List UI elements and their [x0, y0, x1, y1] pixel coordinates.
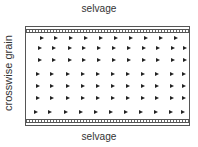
grain-arrow-icon	[52, 58, 56, 62]
grain-arrow-icon	[155, 84, 159, 88]
grain-arrow-icon	[183, 46, 187, 50]
grain-arrow-icon	[94, 110, 98, 114]
grain-arrow-icon	[126, 84, 130, 88]
grain-arrow-icon	[96, 84, 100, 88]
grain-arrow-icon	[127, 46, 131, 50]
grain-arrow-icon	[52, 46, 56, 50]
selvage-bottom-label: selvage	[8, 130, 190, 142]
crosswise-grain-label: crosswise grain	[2, 31, 14, 115]
grain-arrow-icon	[99, 36, 103, 40]
grain-arrow-icon	[159, 36, 163, 40]
grain-arrow-icon	[97, 46, 101, 50]
grain-arrow-icon	[81, 84, 85, 88]
grain-arrow-icon	[84, 36, 88, 40]
grain-arrow-icon	[154, 110, 158, 114]
grain-arrow-icon	[141, 72, 145, 76]
grain-arrow-icon	[34, 110, 38, 114]
grain-arrow-icon	[155, 72, 159, 76]
grain-arrow-icon	[111, 96, 115, 100]
grain-arrow-icon	[171, 58, 175, 62]
grain-arrow-icon	[142, 58, 146, 62]
grain-arrow-icon	[82, 46, 86, 50]
grain-arrow-icon	[124, 110, 128, 114]
fabric-frame	[25, 26, 190, 126]
grain-arrow-icon	[142, 46, 146, 50]
grain-arrow-icon	[40, 36, 44, 40]
grain-arrow-icon	[96, 96, 100, 100]
grain-arrow-icon	[69, 36, 73, 40]
grain-arrow-icon	[36, 96, 40, 100]
grain-arrow-icon	[112, 46, 116, 50]
grain-arrow-icon	[182, 72, 186, 76]
grain-arrow-icon	[79, 110, 83, 114]
grain-arrow-icon	[170, 72, 174, 76]
grain-arrow-icon	[182, 96, 186, 100]
grain-arrow-icon	[36, 72, 40, 76]
grain-arrow-icon	[170, 96, 174, 100]
grain-arrow-icon	[144, 36, 148, 40]
grain-arrow-icon	[68, 46, 72, 50]
selvage-top-edge	[26, 29, 189, 33]
grain-arrow-icon	[126, 96, 130, 100]
grain-arrow-icon	[156, 46, 160, 50]
grain-arrow-icon	[109, 110, 113, 114]
grain-arrow-icon	[38, 46, 42, 50]
grain-arrow-icon	[174, 36, 178, 40]
grain-arrow-icon	[127, 58, 131, 62]
grain-arrow-icon	[96, 72, 100, 76]
grain-arrow-icon	[50, 72, 54, 76]
grain-arrow-icon	[50, 84, 54, 88]
grain-arrow-icon	[68, 58, 72, 62]
grain-arrow-icon	[126, 72, 130, 76]
grain-arrow-icon	[129, 36, 133, 40]
grain-arrow-icon	[169, 110, 173, 114]
selvage-bottom-edge	[26, 119, 189, 123]
grain-arrow-icon	[82, 58, 86, 62]
grain-arrow-icon	[66, 96, 70, 100]
grain-arrow-icon	[50, 96, 54, 100]
grain-arrow-icon	[181, 110, 185, 114]
grain-arrow-icon	[170, 84, 174, 88]
grain-arrow-icon	[156, 58, 160, 62]
selvage-top-label: selvage	[8, 2, 190, 14]
grain-arrow-icon	[114, 36, 118, 40]
grain-arrow-icon	[64, 110, 68, 114]
grain-arrow-icon	[81, 96, 85, 100]
grain-arrow-icon	[183, 58, 187, 62]
grain-arrow-icon	[182, 84, 186, 88]
grain-arrow-icon	[81, 72, 85, 76]
grain-arrow-icon	[66, 72, 70, 76]
grain-arrow-icon	[54, 36, 58, 40]
grain-arrow-icon	[112, 58, 116, 62]
grain-arrow-icon	[139, 110, 143, 114]
grain-arrow-icon	[171, 46, 175, 50]
grain-arrow-icon	[66, 84, 70, 88]
grain-arrow-icon	[111, 84, 115, 88]
grain-arrow-icon	[48, 110, 52, 114]
grain-arrow-icon	[141, 96, 145, 100]
grain-arrow-icon	[38, 58, 42, 62]
grain-arrow-icon	[97, 58, 101, 62]
grain-arrow-icon	[36, 84, 40, 88]
grain-arrow-icon	[155, 96, 159, 100]
grain-arrow-icon	[141, 84, 145, 88]
grain-arrow-icon	[111, 72, 115, 76]
